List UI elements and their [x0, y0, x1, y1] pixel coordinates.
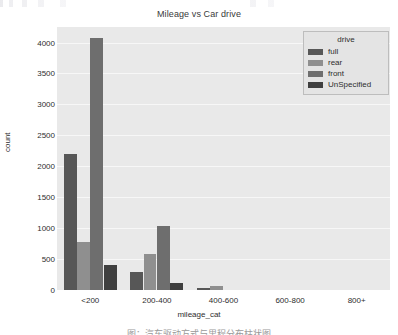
chart-title: Mileage vs Car drive	[0, 9, 398, 19]
gridline	[57, 104, 390, 105]
gridline	[57, 166, 390, 167]
bar	[144, 254, 157, 290]
legend-label: rear	[328, 58, 342, 67]
bar	[104, 265, 117, 290]
y-tick-label: 1500	[9, 193, 55, 202]
bar	[157, 226, 170, 290]
x-axis-label: mileage_cat	[0, 310, 398, 319]
bar	[170, 283, 183, 290]
figure-caption: 图：汽车驱动方式与里程分布柱状图	[0, 327, 398, 335]
y-tick-label: 2500	[9, 131, 55, 140]
bar	[210, 286, 223, 290]
legend-label: UnSpecified	[328, 80, 371, 89]
legend-entry[interactable]: rear	[308, 57, 384, 68]
bar	[64, 154, 77, 290]
x-tick-label: 600-800	[275, 296, 304, 305]
legend-entry[interactable]: UnSpecified	[308, 79, 384, 90]
x-tick-label: 400-600	[209, 296, 238, 305]
x-tick-label: <200	[81, 296, 99, 305]
bar	[197, 288, 210, 290]
legend-entry[interactable]: front	[308, 68, 384, 79]
y-tick-label: 1000	[9, 224, 55, 233]
legend-label: full	[328, 47, 338, 56]
gridline	[57, 197, 390, 198]
x-tick-label: 200-400	[142, 296, 171, 305]
legend-swatch	[308, 82, 323, 88]
legend: drive fullrearfrontUnSpecified	[303, 31, 389, 95]
legend-entry[interactable]: full	[308, 46, 384, 57]
scan-artifact	[0, 0, 398, 7]
legend-title: drive	[308, 35, 384, 44]
y-tick-label: 2000	[9, 162, 55, 171]
legend-label: front	[328, 69, 344, 78]
x-tick-label: 800+	[348, 296, 366, 305]
legend-entries: fullrearfrontUnSpecified	[308, 46, 384, 90]
legend-swatch	[308, 49, 323, 55]
legend-swatch	[308, 71, 323, 77]
legend-swatch	[308, 60, 323, 66]
y-tick-label: 500	[9, 255, 55, 264]
gridline	[57, 228, 390, 229]
bar	[90, 38, 103, 290]
bar	[77, 242, 90, 290]
y-tick-label: 4000	[9, 39, 55, 48]
gridline	[57, 135, 390, 136]
chart-figure: Mileage vs Car drive count 0500100015002…	[0, 0, 398, 335]
gridline	[57, 259, 390, 260]
y-tick-label: 3000	[9, 100, 55, 109]
bar	[130, 272, 143, 290]
y-tick-label: 0	[9, 286, 55, 295]
y-tick-label: 3500	[9, 69, 55, 78]
